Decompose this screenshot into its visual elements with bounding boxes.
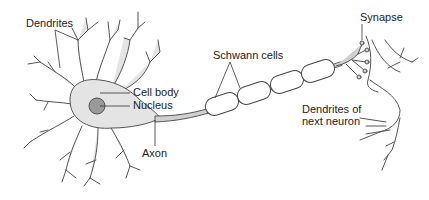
label-next-dendrites-line1: Dendrites of <box>302 103 362 115</box>
label-cell-body: Cell body <box>133 86 179 98</box>
label-dendrites: Dendrites <box>26 17 74 29</box>
label-schwann-cells: Schwann cells <box>213 49 284 61</box>
label-synapse: Synapse <box>360 11 403 23</box>
next-neuron-dendrites <box>360 36 418 170</box>
label-nucleus: Nucleus <box>133 99 173 111</box>
label-next-dendrites-line2: next neuron <box>302 115 360 127</box>
axon-terminal <box>336 41 369 79</box>
neuron-diagram: Dendrites Cell body Nucleus Axon Schwann… <box>0 0 429 200</box>
label-axon: Axon <box>142 147 167 159</box>
